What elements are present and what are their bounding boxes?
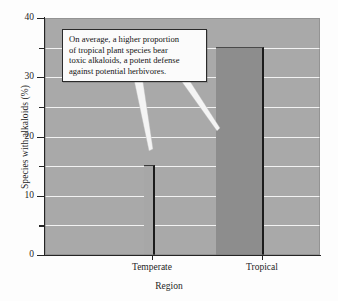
x-tick-label-tropical: Tropical [217,262,307,272]
gridline-25 [45,107,320,108]
y-tick-0 [37,255,44,256]
y-tick-35 [39,48,44,49]
y-tick-40 [37,18,44,19]
callout-line-1: On average, a higher proportion [69,34,200,45]
y-axis-line [44,17,45,256]
callout-line-4: against potential herbivores. [69,66,200,77]
x-axis-line [44,255,321,256]
x-tick-label-temperate: Temperate [107,262,197,272]
y-tick-15 [39,166,44,167]
gridline-10 [45,196,320,197]
bar-tropical [216,47,264,255]
y-tick-5 [39,225,44,226]
gridline-20 [45,137,320,138]
x-tick-tropical [262,255,263,260]
y-tick-label-30: 30 [0,71,34,81]
y-tick-label-40: 40 [0,12,34,22]
x-tick-temperate [152,255,153,260]
callout-line-2: of tropical plant species bear [69,45,200,56]
y-tick-10 [37,196,44,197]
y-tick-20 [37,137,44,138]
alkaloid-bar-chart-figure: Species with alkaloids (%) 40 30 20 10 0 [0,0,338,301]
x-axis-title: Region [0,281,338,291]
y-tick-label-20: 20 [0,131,34,141]
y-tick-25 [39,107,44,108]
y-tick-label-10: 10 [0,190,34,200]
callout-line-3: toxic alkaloids, a potent defense [69,55,200,66]
gridline-15 [45,166,320,167]
alkaloid-callout: On average, a higher proportion of tropi… [62,29,207,82]
bar-temperate [144,165,155,255]
y-tick-label-0: 0 [0,249,34,259]
y-tick-30 [37,77,44,78]
gridline-5 [45,225,320,226]
